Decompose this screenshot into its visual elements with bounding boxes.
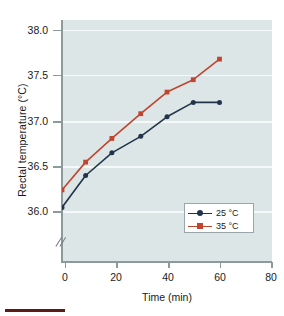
x-tick-80 [271, 262, 273, 268]
y-tick-37-0 [53, 121, 61, 123]
y-tick-36-5 [53, 166, 61, 168]
y-tick-label-37-5: 37.5 [8, 69, 48, 81]
x-tick-0 [65, 262, 67, 268]
x-tick-label-20: 20 [99, 271, 133, 283]
x-tick-40 [168, 262, 170, 268]
x-tick-label-60: 60 [203, 271, 237, 283]
x-tick-20 [116, 262, 118, 268]
series-line [62, 102, 220, 207]
bottom-rule [5, 309, 65, 312]
y-tick-label-36-5: 36.5 [8, 160, 48, 172]
chart-figure: Rectal temperature (°C) 38.0 37.5 37.0 3… [0, 0, 284, 316]
data-point-marker [83, 160, 88, 165]
series-line [62, 59, 220, 190]
y-tick-label-38-0: 38.0 [8, 24, 48, 36]
y-tick-38-0 [53, 30, 61, 32]
data-point-marker [217, 57, 222, 62]
y-tick-36-0 [53, 211, 61, 213]
data-point-marker [83, 173, 88, 178]
legend-label-25c: 25 °C [216, 208, 239, 218]
series-25c [62, 100, 222, 210]
data-point-marker [165, 90, 170, 95]
y-tick-label-36-0: 36.0 [8, 205, 48, 217]
legend[interactable]: 25 °C 35 °C [184, 203, 254, 233]
x-tick-label-80: 80 [254, 271, 284, 283]
series-35c [62, 57, 222, 193]
x-tick-60 [220, 262, 222, 268]
legend-item-25c[interactable]: 25 °C [188, 207, 250, 219]
data-point-marker [217, 100, 222, 105]
x-axis-title: Time (min) [62, 291, 272, 303]
data-point-marker [62, 188, 64, 193]
data-point-marker [191, 77, 196, 82]
data-point-marker [138, 111, 143, 116]
legend-item-35c[interactable]: 35 °C [188, 220, 250, 232]
legend-swatch-25c [188, 208, 212, 219]
y-tick-37-5 [53, 75, 61, 77]
data-point-marker [109, 150, 114, 155]
y-tick-label-37-0: 37.0 [8, 115, 48, 127]
legend-swatch-35c [188, 221, 212, 232]
data-point-marker [191, 100, 196, 105]
legend-label-35c: 35 °C [216, 221, 239, 231]
x-tick-label-0: 0 [48, 271, 82, 283]
x-tick-label-40: 40 [151, 271, 185, 283]
data-point-marker [138, 134, 143, 139]
data-point-marker [165, 114, 170, 119]
data-point-marker [109, 136, 114, 141]
